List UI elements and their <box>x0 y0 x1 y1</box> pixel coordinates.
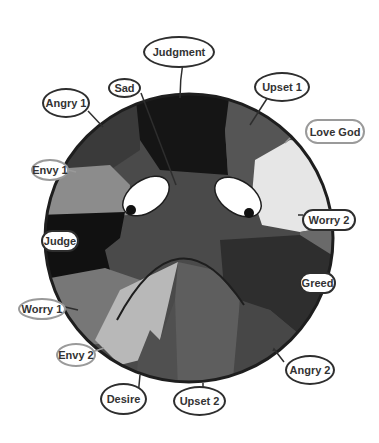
label-greed: Greed <box>299 272 336 294</box>
label-desire: Desire <box>100 383 147 415</box>
left-pupil <box>126 205 136 215</box>
right-pupil <box>244 208 254 218</box>
label-envy1: Envy 1 <box>31 159 69 181</box>
label-judgment: Judgment <box>143 36 215 68</box>
emotion-face-diagram: Judgment Sad Angry 1 Upset 1 Love God En… <box>0 0 379 443</box>
label-worry2: Worry 2 <box>302 209 356 231</box>
label-upset1: Upset 1 <box>254 72 310 102</box>
label-envy2: Envy 2 <box>56 343 96 367</box>
label-sad: Sad <box>108 78 141 98</box>
label-love-god: Love God <box>305 119 365 144</box>
label-worry1: Worry 1 <box>18 298 66 320</box>
label-angry1: Angry 1 <box>42 88 90 118</box>
label-angry2: Angry 2 <box>285 355 335 385</box>
label-judge: Judge <box>41 230 79 252</box>
label-upset2: Upset 2 <box>173 386 226 416</box>
